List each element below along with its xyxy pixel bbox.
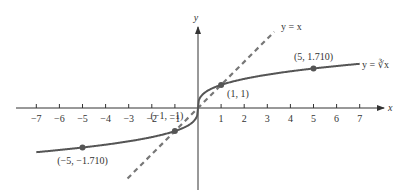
- x-tick-label: 2: [242, 113, 247, 124]
- data-point: [311, 65, 317, 71]
- point-label: (−5, −1.710): [57, 155, 107, 167]
- x-tick-label: −4: [100, 113, 111, 124]
- y-axis-label: y: [193, 12, 199, 23]
- x-tick-label: 1: [219, 113, 224, 124]
- x-tick-label: 5: [311, 113, 316, 124]
- x-tick-label: 3: [265, 113, 270, 124]
- x-axis-label: x: [387, 102, 393, 113]
- data-point: [218, 82, 224, 88]
- cube-root-equation-label: y = ∛x: [362, 58, 389, 70]
- x-tick-label: 7: [357, 113, 362, 124]
- x-tick-label: −7: [31, 113, 42, 124]
- x-tick-label: −3: [123, 113, 134, 124]
- x-tick-label: 4: [288, 113, 293, 124]
- point-label: (−1, −1): [150, 110, 183, 122]
- x-tick-label: −6: [54, 113, 65, 124]
- point-label: (1, 1): [227, 88, 249, 100]
- x-tick-label: 6: [334, 113, 339, 124]
- point-label: (5, 1.710): [294, 51, 333, 63]
- data-point: [172, 128, 178, 134]
- x-tick-label: −5: [77, 113, 88, 124]
- identity-equation-label: y = x: [281, 21, 302, 32]
- data-point: [80, 145, 86, 151]
- plot-area: xy −7−6−5−4−3−2−11234567 (5, 1.710)(1, 1…: [0, 0, 408, 190]
- cube-root-graph: xy −7−6−5−4−3−2−11234567 (5, 1.710)(1, 1…: [0, 0, 408, 190]
- identity-line: [128, 32, 275, 179]
